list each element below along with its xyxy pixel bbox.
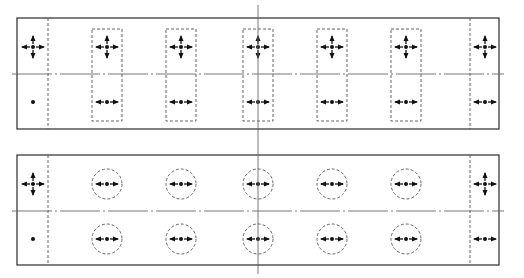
horizontal-arrows-icon: [395, 237, 417, 241]
element-rect: [166, 29, 196, 121]
horizontal-arrows-icon: [96, 182, 118, 186]
center-dot: [31, 45, 35, 49]
left-end-supports: [22, 36, 44, 104]
cross-arrows-icon: [395, 36, 417, 58]
element-circle: [92, 169, 122, 254]
horizontal-arrows-icon: [395, 100, 417, 104]
element-circle: [391, 169, 421, 254]
center-dot: [483, 45, 487, 49]
center-dot: [105, 237, 109, 241]
fixed-point-dot-icon: [31, 100, 35, 104]
horizontal-arrows-icon: [474, 237, 496, 241]
center-dot: [404, 182, 408, 186]
right-end-supports: [474, 36, 496, 104]
center-dot: [483, 237, 487, 241]
center-dot: [404, 237, 408, 241]
center-dot: [179, 45, 183, 49]
horizontal-arrows-icon: [96, 100, 118, 104]
center-dot: [179, 237, 183, 241]
center-dot: [31, 182, 35, 186]
element-circle: [166, 169, 196, 254]
center-dot: [404, 45, 408, 49]
element-rect: [391, 29, 421, 121]
right-end-supports: [474, 173, 496, 241]
center-dot: [330, 45, 334, 49]
horizontal-arrows-icon: [170, 182, 192, 186]
center-dot: [483, 182, 487, 186]
element-rect: [92, 29, 122, 121]
center-dot: [105, 45, 109, 49]
cross-arrows-icon: [22, 173, 44, 195]
horizontal-arrows-icon: [474, 100, 496, 104]
cross-arrows-icon: [96, 36, 118, 58]
center-dot: [179, 100, 183, 104]
support-layout-diagram: [0, 0, 524, 278]
center-dot: [404, 100, 408, 104]
horizontal-arrows-icon: [170, 100, 192, 104]
horizontal-arrows-icon: [96, 237, 118, 241]
center-dot: [483, 100, 487, 104]
cross-arrows-icon: [170, 36, 192, 58]
cross-arrows-icon: [22, 36, 44, 58]
center-dot: [330, 237, 334, 241]
horizontal-arrows-icon: [321, 182, 343, 186]
element-rect: [317, 29, 347, 121]
cross-arrows-icon: [474, 173, 496, 195]
center-dot: [330, 182, 334, 186]
horizontal-arrows-icon: [321, 100, 343, 104]
center-dot: [105, 100, 109, 104]
center-dot: [330, 100, 334, 104]
center-dot: [179, 182, 183, 186]
left-end-supports: [22, 173, 44, 241]
horizontal-arrows-icon: [321, 237, 343, 241]
cross-arrows-icon: [321, 36, 343, 58]
cross-arrows-icon: [474, 36, 496, 58]
horizontal-arrows-icon: [395, 182, 417, 186]
fixed-point-dot-icon: [31, 237, 35, 241]
center-dot: [105, 182, 109, 186]
element-circle: [317, 169, 347, 254]
horizontal-arrows-icon: [170, 237, 192, 241]
